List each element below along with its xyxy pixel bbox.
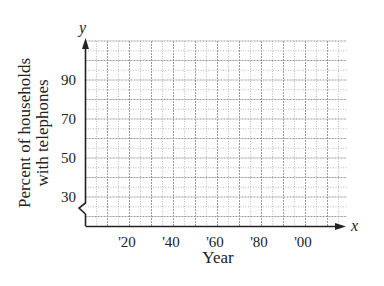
x-axis-title: Year — [202, 248, 234, 267]
chart-svg: y x 90 70 50 30 '20 '40 '60 '80 '00 Year… — [0, 0, 384, 286]
y-axis-title-line-2: with telephones — [33, 79, 52, 186]
x-tick-label: '00 — [294, 234, 312, 250]
y-axis-variable: y — [77, 19, 87, 37]
y-tick-label: 50 — [61, 150, 76, 166]
grid — [86, 41, 348, 226]
y-tick-label: 70 — [61, 111, 76, 127]
x-axis-variable: x — [350, 217, 358, 234]
x-axis-arrow-icon — [335, 223, 346, 230]
y-tick-label: 30 — [61, 189, 76, 205]
y-axis-arrow-icon — [82, 38, 89, 49]
y-axis-title: Percent of households with telephones — [15, 58, 52, 208]
y-tick-labels: 90 70 50 30 — [61, 72, 76, 205]
y-axis-break-icon — [79, 48, 86, 214]
y-tick-label: 90 — [61, 72, 76, 88]
y-axis-title-line-1: Percent of households — [15, 58, 34, 208]
x-tick-label: '20 — [118, 234, 136, 250]
x-tick-label: '80 — [250, 234, 268, 250]
x-tick-label: '40 — [162, 234, 180, 250]
